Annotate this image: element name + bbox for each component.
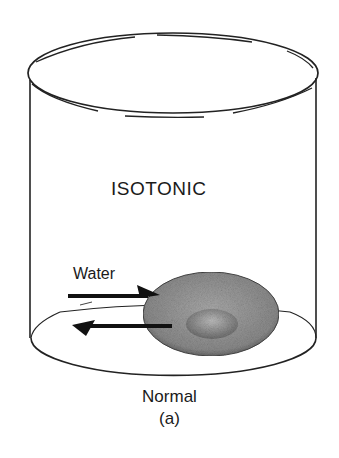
arrow-label-water: Water [73, 265, 115, 283]
diagram-title: ISOTONIC [111, 178, 207, 200]
panel-label: (a) [0, 409, 339, 429]
red-blood-cell [143, 272, 279, 356]
water-streak [80, 302, 92, 305]
water-in-arrow [68, 285, 160, 298]
beaker-rim [28, 33, 318, 117]
caption-normal: Normal [0, 387, 339, 407]
